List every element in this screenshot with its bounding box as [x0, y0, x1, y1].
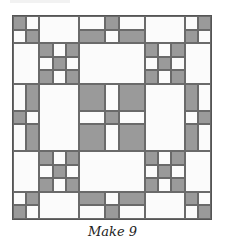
dark-patch	[158, 57, 171, 71]
dark-patch	[105, 205, 118, 219]
light-patch	[171, 57, 184, 71]
dark-patch	[145, 151, 158, 165]
dark-patch	[79, 124, 105, 151]
dark-patch	[13, 111, 26, 125]
light-patch	[39, 165, 52, 179]
light-patch	[145, 84, 185, 152]
light-patch	[39, 192, 79, 219]
light-patch	[198, 30, 211, 44]
dark-patch	[171, 178, 184, 192]
light-patch	[13, 192, 26, 206]
dark-patch	[171, 70, 184, 84]
dark-patch	[26, 124, 39, 151]
dark-patch	[185, 30, 198, 44]
dark-patch	[145, 70, 158, 84]
light-patch	[79, 151, 145, 192]
light-patch	[158, 178, 171, 192]
light-patch	[26, 16, 39, 30]
light-patch	[13, 43, 39, 84]
light-patch	[158, 43, 171, 57]
light-patch	[185, 205, 198, 219]
dark-patch	[66, 43, 79, 57]
dark-patch	[105, 16, 118, 30]
light-patch	[39, 84, 79, 152]
dark-patch	[198, 16, 211, 30]
light-patch	[145, 165, 158, 179]
light-patch	[119, 205, 145, 219]
dark-patch	[105, 111, 118, 125]
light-patch	[145, 57, 158, 71]
dark-patch	[119, 84, 145, 111]
light-patch	[53, 70, 66, 84]
light-patch	[158, 151, 171, 165]
light-patch	[79, 16, 105, 30]
light-patch	[158, 70, 171, 84]
dark-patch	[26, 192, 39, 206]
dark-patch	[171, 151, 184, 165]
dark-patch	[145, 178, 158, 192]
dark-patch	[66, 151, 79, 165]
dark-patch	[79, 84, 105, 111]
light-patch	[39, 57, 52, 71]
light-patch	[79, 111, 105, 125]
light-patch	[105, 192, 118, 206]
dark-patch	[66, 178, 79, 192]
light-patch	[66, 57, 79, 71]
dark-patch	[79, 30, 105, 44]
light-patch	[53, 151, 66, 165]
light-patch	[198, 192, 211, 206]
dark-patch	[198, 205, 211, 219]
dark-patch	[39, 178, 52, 192]
dark-patch	[185, 84, 198, 111]
dark-patch	[26, 30, 39, 44]
light-patch	[171, 165, 184, 179]
dark-patch	[198, 111, 211, 125]
dark-patch	[185, 192, 198, 206]
light-patch	[13, 30, 26, 44]
dark-patch	[119, 30, 145, 44]
dark-patch	[39, 70, 52, 84]
dark-patch	[171, 43, 184, 57]
quilt-block-diagram	[12, 15, 212, 220]
light-patch	[198, 124, 211, 151]
light-patch	[185, 43, 211, 84]
light-patch	[26, 111, 39, 125]
light-patch	[13, 151, 39, 192]
light-patch	[13, 84, 26, 111]
dark-patch	[53, 165, 66, 179]
light-patch	[185, 151, 211, 192]
light-patch	[185, 16, 198, 30]
light-patch	[105, 84, 118, 111]
light-patch	[26, 205, 39, 219]
dark-patch	[185, 124, 198, 151]
dark-patch	[53, 57, 66, 71]
dark-patch	[39, 151, 52, 165]
light-patch	[105, 30, 118, 44]
light-patch	[66, 165, 79, 179]
light-patch	[79, 205, 105, 219]
dark-patch	[39, 43, 52, 57]
light-patch	[145, 192, 185, 219]
cropped-text-remnant	[10, 0, 70, 3]
dark-patch	[158, 165, 171, 179]
light-patch	[145, 16, 185, 43]
light-patch	[119, 16, 145, 30]
dark-patch	[26, 84, 39, 111]
light-patch	[105, 124, 118, 151]
dark-patch	[119, 124, 145, 151]
light-patch	[13, 124, 26, 151]
light-patch	[53, 178, 66, 192]
light-patch	[198, 84, 211, 111]
dark-patch	[66, 70, 79, 84]
light-patch	[79, 43, 145, 84]
dark-patch	[13, 205, 26, 219]
dark-patch	[13, 16, 26, 30]
figure-caption: Make 9	[0, 224, 225, 239]
dark-patch	[79, 192, 105, 206]
light-patch	[119, 111, 145, 125]
light-patch	[53, 43, 66, 57]
light-patch	[39, 16, 79, 43]
light-patch	[185, 111, 198, 125]
dark-patch	[145, 43, 158, 57]
dark-patch	[119, 192, 145, 206]
